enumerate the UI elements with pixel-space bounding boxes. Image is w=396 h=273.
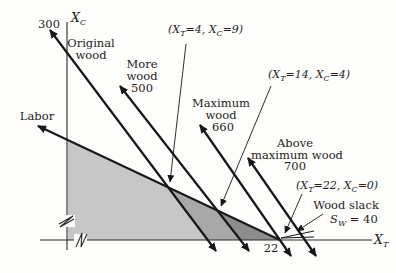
constraint-graph-figure: XC XT 300 22 Labor Original wood More wo… bbox=[0, 0, 396, 273]
original-wood-label-2: wood bbox=[75, 48, 107, 62]
point-label-22-0: (XT=22, XC=0) bbox=[296, 179, 378, 194]
x-axis-label: XT bbox=[373, 232, 389, 249]
point-label-4-9: (XT=4, XC=9) bbox=[168, 23, 243, 38]
point-label-14-4: (XT=14, XC=4) bbox=[268, 68, 350, 83]
wood-slack-indicator bbox=[281, 231, 314, 238]
wood-slack-value: SW = 40 bbox=[330, 212, 378, 228]
more-wood-label-3: 500 bbox=[131, 81, 153, 95]
pointer-to-slack-wedge bbox=[297, 214, 323, 231]
y-tick-300: 300 bbox=[38, 17, 60, 31]
labor-label: Labor bbox=[20, 109, 55, 123]
lp-wood-labor-graph: XC XT 300 22 Labor Original wood More wo… bbox=[0, 0, 396, 273]
y-axis-label: XC bbox=[70, 10, 86, 27]
x-tick-22: 22 bbox=[264, 241, 279, 255]
wood-slack-label: Wood slack bbox=[313, 198, 380, 212]
above-maximum-wood-label-3: 700 bbox=[284, 159, 306, 173]
region-original-wood bbox=[68, 140, 208, 240]
maximum-wood-label-3: 660 bbox=[212, 120, 234, 134]
